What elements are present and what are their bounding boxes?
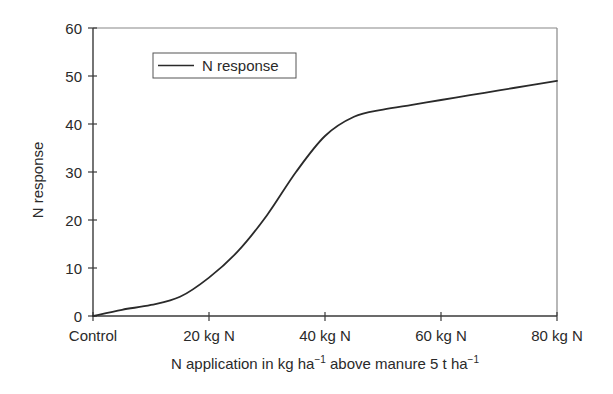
line-chart: 0102030405060 Control20 kg N40 kg N60 kg… [0, 0, 613, 394]
x-tick-label: 20 kg N [183, 327, 235, 344]
x-tick-label: 60 kg N [415, 327, 467, 344]
y-tick-label: 10 [65, 260, 82, 277]
n-response-line [93, 81, 557, 316]
y-tick-label: 50 [65, 68, 82, 85]
x-tick-label: 40 kg N [299, 327, 351, 344]
y-tick-label: 40 [65, 116, 82, 133]
x-tick-label: 80 kg N [531, 327, 583, 344]
y-tick-label: 0 [74, 308, 82, 325]
y-tick-label: 30 [65, 164, 82, 181]
legend: N response [153, 53, 296, 78]
y-axis: 0102030405060 [65, 20, 97, 325]
y-tick-label: 60 [65, 20, 82, 37]
x-axis: Control20 kg N40 kg N60 kg N80 kg N [69, 312, 583, 344]
legend-label: N response [202, 57, 279, 74]
x-tick-label: Control [69, 327, 117, 344]
x-axis-title: N application in kg ha−1 above manure 5 … [171, 354, 479, 372]
y-axis-title: N response [29, 142, 46, 219]
y-tick-label: 20 [65, 212, 82, 229]
